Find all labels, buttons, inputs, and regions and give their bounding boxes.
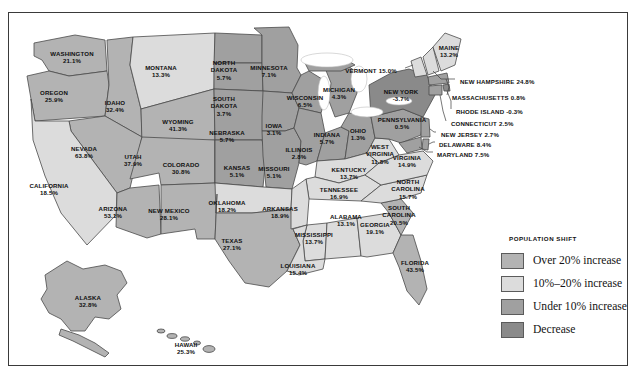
lake-huron — [351, 66, 367, 92]
state-utah — [130, 137, 215, 185]
lake-superior — [301, 53, 353, 67]
state-alabama — [325, 218, 361, 259]
legend-label-under10: Under 10% increase — [533, 300, 627, 313]
legend-item-decrease: Decrease — [501, 318, 621, 341]
map-figure: .s { stroke:#4a4a4a; stroke-width:0.8; }… — [8, 12, 628, 366]
leader-vermont — [405, 65, 413, 68]
legend-label-mid: 10%–20% increase — [533, 277, 622, 290]
state-kansas — [215, 140, 266, 187]
legend-label-decrease: Decrease — [533, 323, 575, 336]
legend-swatch-decrease — [501, 322, 524, 338]
state-delaware — [422, 139, 429, 150]
state-newjersey — [421, 117, 430, 137]
lake-erie — [351, 107, 383, 117]
state-oregon — [27, 71, 109, 121]
state-alaska-aleutians — [59, 329, 109, 357]
leader-newjersey — [430, 129, 436, 132]
legend-swatch-under10 — [501, 299, 524, 315]
state-northdakota — [214, 33, 262, 63]
legend-item-under10: Under 10% increase — [501, 295, 621, 318]
legend-rows: Over 20% increase10%–20% increaseUnder 1… — [501, 249, 621, 341]
state-missouri — [262, 128, 301, 189]
legend-swatch-over20 — [501, 253, 524, 269]
lake-michigan — [318, 76, 330, 110]
legend-swatch-mid — [501, 276, 524, 292]
legend-item-over20: Over 20% increase — [501, 249, 621, 272]
state-alaska — [41, 261, 127, 331]
legend-title: POPULATION SHIFT — [509, 235, 621, 242]
state-connecticut — [429, 85, 442, 95]
leader-delaware — [429, 142, 435, 144]
state-mississippi — [303, 223, 327, 261]
state-southdakota — [214, 63, 263, 91]
lake-ontario — [386, 97, 412, 105]
state-washington — [34, 35, 107, 76]
legend-label-over20: Over 20% increase — [533, 254, 621, 267]
leader-connecticut — [440, 95, 446, 121]
state-hawaii — [157, 329, 215, 352]
state-newmexico — [161, 183, 217, 239]
legend-item-mid: 10%–20% increase — [501, 272, 621, 295]
state-arizona — [116, 185, 161, 238]
legend: POPULATION SHIFT Over 20% increase10%–20… — [501, 235, 621, 359]
state-florida — [393, 235, 427, 305]
state-arkansas — [291, 179, 309, 229]
